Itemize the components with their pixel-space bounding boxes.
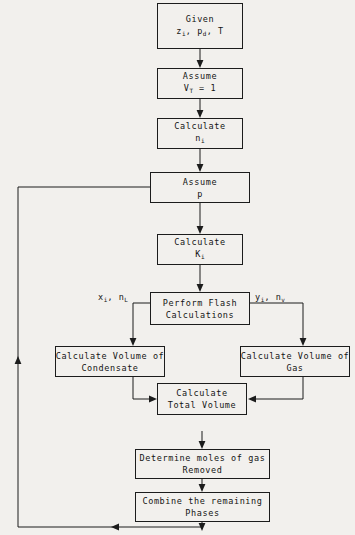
arrowhead-given-to-assume-vt xyxy=(197,60,204,68)
node-vol-gas[interactable]: Calculate Volume of Gas xyxy=(240,346,350,377)
node-perform-flash-line2: Calculations xyxy=(166,309,235,321)
node-calc-ki-line2: Ki xyxy=(195,248,205,263)
node-calc-ni[interactable]: Calculate ni xyxy=(157,118,243,149)
arrowhead-feedback-left-upward xyxy=(15,356,22,364)
arrowhead-feedback-bottom-leftward xyxy=(111,524,119,531)
node-moles-gas-removed-line2: Removed xyxy=(182,464,222,476)
node-moles-gas-removed[interactable]: Determine moles of gas Removed xyxy=(135,449,270,479)
node-calc-ni-line2: ni xyxy=(195,132,205,147)
node-assume-p-line2: p xyxy=(197,188,203,200)
node-calc-ki-line1: Calculate xyxy=(174,236,225,248)
assume-p-var-p: p xyxy=(197,189,203,199)
node-vol-gas-line1: Calculate Volume of xyxy=(241,350,350,362)
arrowhead-calc-ki-to-flash xyxy=(197,284,204,292)
node-vol-condensate[interactable]: Calculate Volume of Condensate xyxy=(55,346,165,377)
arrowhead-calc-ni-to-assume-p xyxy=(197,164,204,172)
given-var-t: , T xyxy=(207,26,224,36)
arrowhead-vol-gas-to-total-vol xyxy=(248,396,256,403)
calc-ni-sub-i: i xyxy=(201,137,205,144)
node-calc-ki[interactable]: Calculate Ki xyxy=(157,234,243,265)
node-vol-condensate-line2: Condensate xyxy=(81,362,138,374)
connector-flash-to-vol-cond xyxy=(133,303,150,341)
node-combine-phases-line1: Combine the remaining xyxy=(142,495,262,507)
liquid-var-n: , n xyxy=(107,292,124,302)
node-perform-flash-line1: Perform Flash xyxy=(163,297,237,309)
node-assume-p-line1: Assume xyxy=(183,176,217,188)
arrowhead-flash-to-vol-gas xyxy=(300,338,307,346)
liquid-sub-l: L xyxy=(124,296,128,303)
vapor-sub-v: v xyxy=(281,296,285,303)
node-vol-gas-line2: Gas xyxy=(286,362,303,374)
node-assume-vt[interactable]: Assume VT = 1 xyxy=(157,68,243,99)
node-given-line2: zi, pd, T xyxy=(176,25,224,40)
assume-vt-eq-1: = 1 xyxy=(193,83,216,93)
connector-vol-gas-to-total-vol xyxy=(253,377,303,399)
edge-label-liquid: xi, nL xyxy=(98,292,128,305)
node-total-volume[interactable]: Calculate Total Volume xyxy=(157,383,247,415)
calc-ki-sub-i: i xyxy=(201,253,205,260)
node-total-volume-line2: Total Volume xyxy=(168,399,237,411)
node-perform-flash[interactable]: Perform Flash Calculations xyxy=(150,292,250,325)
vapor-var-n: , n xyxy=(264,292,281,302)
node-moles-gas-removed-line1: Determine moles of gas xyxy=(140,452,266,464)
edge-label-vapor: yi, nv xyxy=(255,292,285,305)
arrowhead-moles-gas-to-combine xyxy=(199,484,206,492)
arrowhead-assume-vt-to-calc-ni xyxy=(197,110,204,118)
node-total-volume-line1: Calculate xyxy=(176,387,227,399)
node-assume-vt-line1: Assume xyxy=(183,70,217,82)
arrowhead-assume-p-to-calc-ki xyxy=(197,226,204,234)
node-combine-phases[interactable]: Combine the remaining Phases xyxy=(135,492,270,522)
arrowhead-total-vol-to-moles-gas xyxy=(199,441,206,449)
node-combine-phases-line2: Phases xyxy=(185,507,219,519)
connector-flash-to-vol-gas xyxy=(250,303,303,341)
node-vol-condensate-line1: Calculate Volume of xyxy=(56,350,165,362)
flowchart-canvas: Given zi, pd, T Assume VT = 1 Calculate … xyxy=(0,0,355,535)
node-assume-vt-line2: VT = 1 xyxy=(184,82,216,97)
node-assume-p[interactable]: Assume p xyxy=(150,172,250,203)
arrowhead-flash-to-vol-cond xyxy=(130,338,137,346)
node-given-line1: Given xyxy=(186,13,215,25)
given-var-p: , p xyxy=(186,26,203,36)
node-calc-ni-line1: Calculate xyxy=(174,120,225,132)
node-given[interactable]: Given zi, pd, T xyxy=(157,3,243,49)
arrowhead-vol-cond-to-total-vol xyxy=(149,396,157,403)
